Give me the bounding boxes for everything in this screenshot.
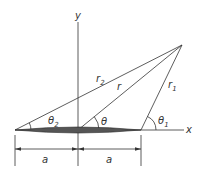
arrowhead-icon [135, 147, 141, 151]
y-axis-label: y [74, 10, 82, 21]
label-r2: r2 [96, 73, 105, 87]
label-theta: θ [101, 116, 107, 127]
label-theta1: θ1 [158, 115, 169, 129]
dim-label-left: a [42, 154, 48, 165]
dim-label-right: a [106, 154, 112, 165]
arc-theta1 [148, 117, 157, 131]
label-r: r [117, 81, 122, 92]
plate-coordinate-diagram: y x r2 r r1 θ2 θ θ1 a a [0, 0, 202, 178]
label-theta2: θ2 [48, 115, 59, 129]
arrowhead-icon [15, 147, 21, 151]
x-axis-label: x [185, 124, 192, 135]
label-r1: r1 [168, 79, 177, 93]
line-r [78, 45, 182, 130]
plate-body [15, 127, 141, 133]
line-r2 [15, 45, 182, 130]
arrowhead-icon [72, 147, 78, 151]
diagram-svg: y x r2 r r1 θ2 θ θ1 a a [0, 0, 202, 178]
arrowhead-icon [78, 147, 84, 151]
